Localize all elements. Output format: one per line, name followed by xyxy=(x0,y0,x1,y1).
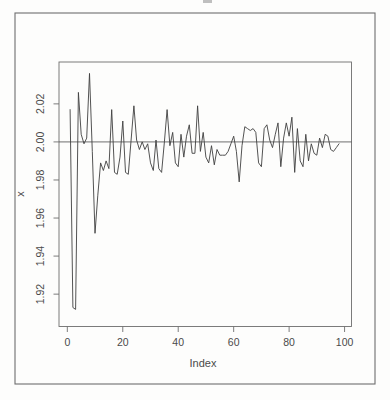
y-axis-title: x xyxy=(14,191,26,197)
x-tick-label: 0 xyxy=(64,336,70,348)
x-tick-label: 20 xyxy=(117,336,129,348)
series-line xyxy=(70,73,339,309)
figure-border-box xyxy=(15,13,375,384)
y-tick-label: 2.00 xyxy=(34,132,46,153)
x-tick-label: 100 xyxy=(336,336,354,348)
line-chart: 0204060801001.921.941.961.982.002.02 Ind… xyxy=(0,0,390,400)
y-tick-label: 2.02 xyxy=(34,93,46,114)
x-tick-label: 80 xyxy=(283,336,295,348)
x-axis-title: Index xyxy=(190,357,217,369)
data-series-layer xyxy=(59,73,352,309)
y-tick-label: 1.94 xyxy=(34,246,46,267)
plot-frame xyxy=(59,62,352,327)
cut-off-title-fragment xyxy=(203,0,212,3)
y-tick-label: 1.98 xyxy=(34,170,46,191)
scanned-figure-page: 0204060801001.921.941.961.982.002.02 Ind… xyxy=(0,0,390,400)
y-tick-label: 1.96 xyxy=(34,208,46,229)
axis-ticks-layer: 0204060801001.921.941.961.982.002.02 xyxy=(34,93,353,348)
y-tick-label: 1.92 xyxy=(34,284,46,305)
x-tick-label: 40 xyxy=(172,336,184,348)
x-tick-label: 60 xyxy=(228,336,240,348)
